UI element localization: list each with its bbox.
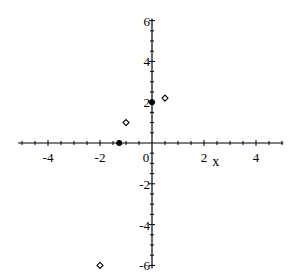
open-diamond-point	[123, 120, 129, 126]
x-tick-label: 4	[253, 150, 260, 165]
y-tick-label: 4	[144, 54, 151, 69]
x-tick-label: 0	[143, 150, 150, 165]
x-axis-title: x	[212, 154, 219, 169]
axes	[18, 19, 283, 269]
open-diamond-point	[162, 95, 168, 101]
y-tick-label: -4	[139, 218, 150, 233]
x-tick-label: -2	[95, 150, 106, 165]
filled-circle-point	[117, 140, 122, 145]
y-tick-label: -2	[139, 177, 150, 192]
open-diamond-point	[97, 262, 103, 268]
x-tick-label: 2	[201, 150, 208, 165]
x-tick-label: -4	[43, 150, 54, 165]
data-points	[97, 95, 168, 268]
y-tick-label: -6	[139, 258, 150, 273]
y-tick-label: 6	[144, 14, 151, 29]
filled-circle-point	[149, 100, 154, 105]
scatter-chart: -4-2024-6-4-2246 x	[0, 0, 296, 273]
